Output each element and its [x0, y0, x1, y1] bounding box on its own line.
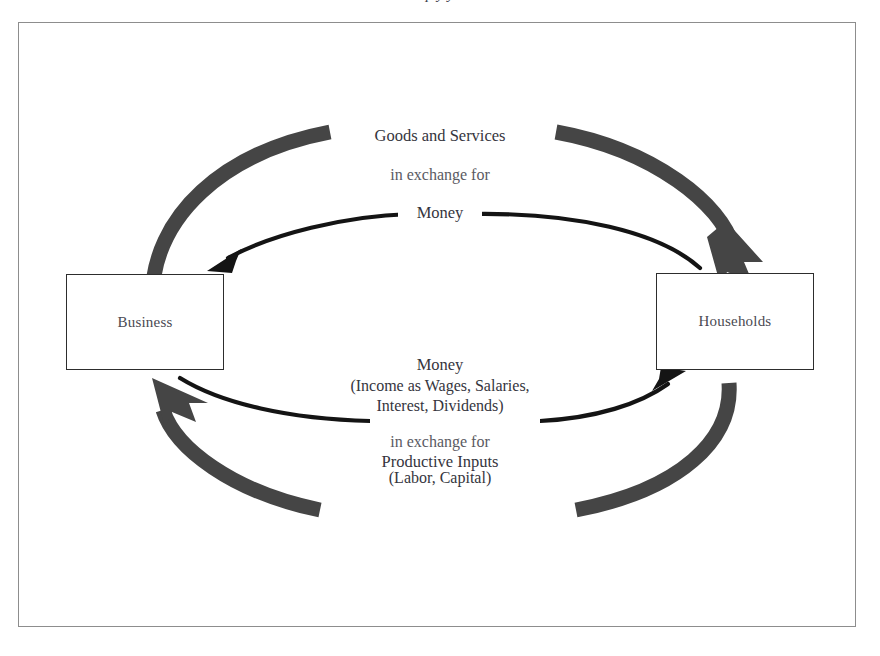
flow-label-top-line-3: Money: [0, 205, 880, 222]
flow-label-productive-inputs: Money (Income as Wages, Salaries, Intere…: [0, 357, 880, 486]
flow-label-bottom-line-4: in exchange for: [0, 434, 880, 450]
entity-box-households[interactable]: Households: [656, 273, 814, 370]
flow-label-bottom-line-5: Productive Inputs: [0, 454, 880, 471]
flow-label-top-line-2: in exchange for: [0, 167, 880, 183]
entity-box-business[interactable]: Business: [66, 274, 224, 370]
diagram-page: p y y: [0, 0, 880, 656]
entity-label-households: Households: [699, 313, 772, 330]
flow-label-goods-and-services: Goods and Services in exchange for Money: [0, 128, 880, 221]
flow-label-bottom-line-6: (Labor, Capital): [0, 470, 880, 486]
flow-label-bottom-line-3: Interest, Dividends): [0, 398, 880, 414]
flow-label-bottom-line-2: (Income as Wages, Salaries,: [0, 378, 880, 394]
label-spacer: [0, 183, 880, 205]
label-spacer: [0, 145, 880, 167]
flow-label-top-line-1: Goods and Services: [0, 128, 880, 145]
entity-label-business: Business: [118, 314, 173, 331]
label-spacer: [0, 414, 880, 434]
flow-label-bottom-line-1: Money: [0, 357, 880, 374]
